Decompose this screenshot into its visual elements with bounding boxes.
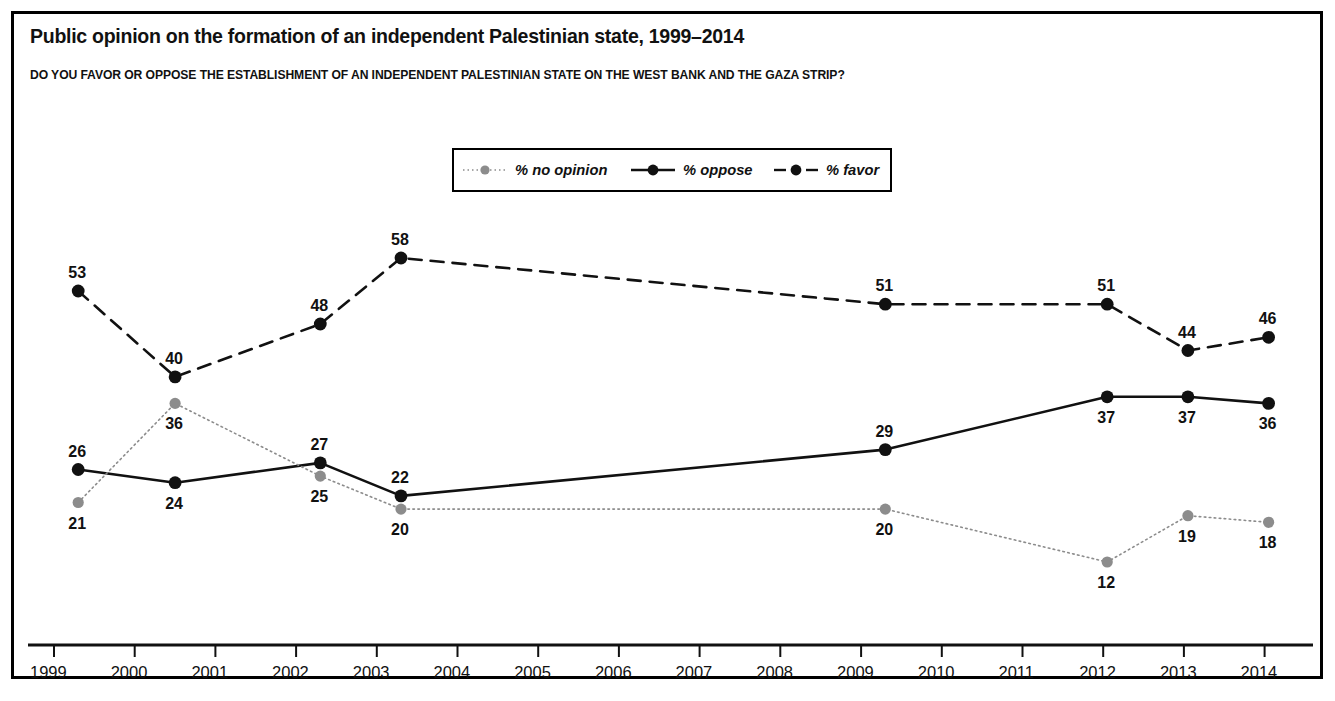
chart-page: Public opinion on the formation of an in…	[0, 0, 1335, 701]
legend-label-no-opinion: % no opinion	[515, 161, 607, 179]
page-subtitle: DO YOU FAVOR OR OPPOSE THE ESTABLISHMENT…	[30, 67, 845, 82]
page-title: Public opinion on the formation of an in…	[30, 24, 744, 48]
legend-item-no-opinion[interactable]: % no opinion	[458, 161, 616, 179]
legend-item-favor[interactable]: % favor	[769, 161, 886, 179]
legend-swatch-favor	[773, 163, 819, 177]
legend-swatch-no-opinion	[462, 163, 508, 177]
chart-frame	[11, 11, 1323, 679]
legend-item-oppose[interactable]: % oppose	[626, 161, 760, 179]
legend-label-oppose: % oppose	[683, 161, 753, 179]
legend-swatch-oppose	[630, 163, 676, 177]
legend-label-favor: % favor	[826, 161, 879, 179]
chart-legend: % no opinion % oppose % favor	[452, 148, 892, 192]
